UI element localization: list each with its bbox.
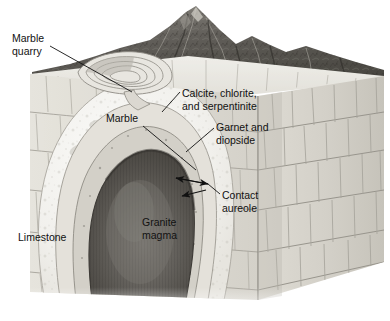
label-marble: Marble <box>106 112 138 124</box>
label-calcite-chlorite-serpentinite: Calcite, chlorite, and serpentinite <box>182 87 260 112</box>
label-limestone: Limestone <box>18 231 67 243</box>
bottom-fade <box>0 232 390 321</box>
label-granite-magma: Granite magma <box>142 216 179 241</box>
block-diagram: Marble quarry Marble Calcite, chlorite, … <box>0 0 390 321</box>
figure-container: Marble quarry Marble Calcite, chlorite, … <box>0 0 390 321</box>
label-contact-aureole: Contact aureole <box>222 189 261 214</box>
